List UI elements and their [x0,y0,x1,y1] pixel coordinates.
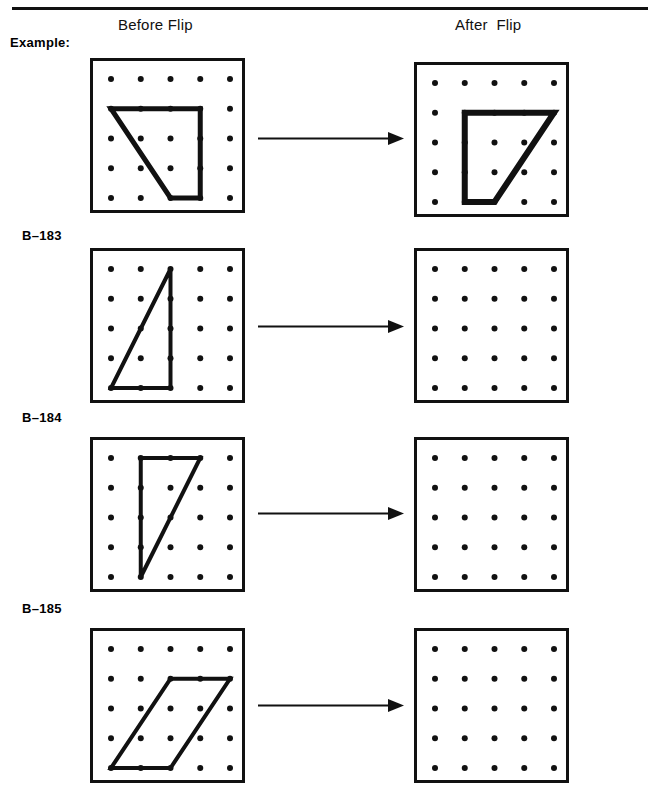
grid-dot [492,515,498,521]
grid-dot [227,136,233,142]
grid-dot [521,515,527,521]
grid-dot [227,646,233,652]
grid-dot [521,140,527,146]
row-label-example: Example: [10,35,70,50]
grid-dot [462,706,468,712]
grid-dot [521,266,527,272]
grid-dot [432,455,438,461]
grid-dot [432,140,438,146]
grid-dot [227,515,233,521]
grid-dot [462,296,468,302]
grid-dot [432,355,438,361]
grid-dot [432,385,438,391]
arrow-head [388,699,404,712]
grid-dot [551,266,557,272]
grid-dot [551,169,557,175]
grid-dot [492,80,498,86]
row-label-b-185: B–185 [22,601,62,616]
grid-dot [432,544,438,550]
grid-dot [227,355,233,361]
grid-dot [551,80,557,86]
grid-dot [551,485,557,491]
grid-dot [227,574,233,580]
dot-grid [108,646,233,771]
flip-arrow-b-183 [258,318,404,335]
grid-dot [492,385,498,391]
grid-dot [432,706,438,712]
grid-dot [462,455,468,461]
grid-dot [197,765,203,771]
figure-parallelogram [111,679,230,768]
grid-dot [168,646,174,652]
grid-dot [108,165,114,171]
figure-right-triangle [141,458,201,577]
geoboard-after-b-183[interactable] [414,248,569,403]
grid-dot [168,544,174,550]
worksheet-page: Before Flip After Flip Example:B–183B–18… [0,0,658,794]
grid-dot [551,515,557,521]
arrow-head [388,507,404,520]
arrow-head [388,132,404,145]
grid-dot [551,544,557,550]
grid-dot [551,326,557,332]
grid-dot [462,80,468,86]
grid-dot [227,266,233,272]
grid-dot [108,485,114,491]
grid-dot [551,646,557,652]
grid-dot [521,706,527,712]
grid-dot [168,574,174,580]
grid-dot [108,76,114,82]
grid-dot [108,676,114,682]
grid-dot [227,455,233,461]
grid-dot [168,76,174,82]
grid-dot [227,76,233,82]
grid-dot [492,169,498,175]
grid-dot [492,765,498,771]
grid-dot [138,296,144,302]
figure-trapezoid-flipped [465,113,554,202]
grid-dot [432,110,438,116]
grid-dot [492,676,498,682]
grid-dot [227,165,233,171]
geoboard-before-b-184[interactable] [90,437,245,592]
grid-dot [492,574,498,580]
geoboard-before-b-185[interactable] [90,628,245,783]
grid-dot [197,385,203,391]
grid-dot [227,296,233,302]
column-header-after-flip: After Flip [455,16,521,33]
column-header-before-flip: Before Flip [118,16,193,33]
grid-dot [197,544,203,550]
grid-dot [521,326,527,332]
grid-dot [462,266,468,272]
grid-dot [197,735,203,741]
grid-dot [492,326,498,332]
dot-grid [432,80,557,205]
grid-dot [551,706,557,712]
grid-dot [138,165,144,171]
grid-dot [521,544,527,550]
grid-dot [521,676,527,682]
grid-dot [227,735,233,741]
grid-dot [432,485,438,491]
grid-dot [227,385,233,391]
grid-dot [227,326,233,332]
grid-dot [462,515,468,521]
geoboard-after-b-184[interactable] [414,437,569,592]
grid-dot [197,706,203,712]
geoboard-after-b-185[interactable] [414,628,569,783]
grid-dot [462,646,468,652]
geoboard-before-b-183[interactable] [90,248,245,403]
geoboard-before-example[interactable] [90,58,245,213]
grid-dot [108,735,114,741]
grid-dot [492,735,498,741]
row-label-b-183: B–183 [22,228,62,243]
grid-dot [138,355,144,361]
grid-dot [432,646,438,652]
dot-grid [432,646,557,771]
geoboard-after-example[interactable] [414,62,569,217]
grid-dot [197,266,203,272]
grid-dot [492,296,498,302]
grid-dot [432,80,438,86]
grid-dot [197,355,203,361]
grid-dot [521,385,527,391]
